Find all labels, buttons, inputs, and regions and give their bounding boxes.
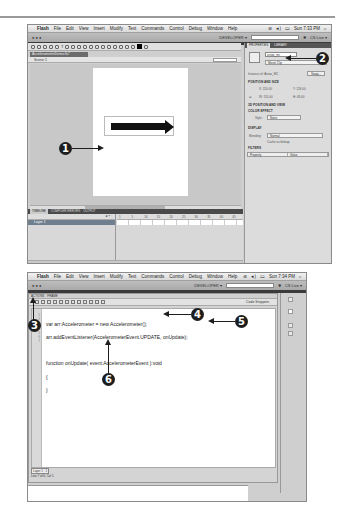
- menu-debug[interactable]: Debug: [189, 274, 202, 279]
- menu-commands[interactable]: Commands: [141, 274, 164, 279]
- frame-row[interactable]: [117, 220, 243, 225]
- pencil-tool-icon[interactable]: [77, 45, 81, 49]
- lasso-tool-icon[interactable]: [49, 45, 53, 49]
- menu-modify[interactable]: Modify: [110, 274, 123, 279]
- instance-name-field[interactable]: arrow_mc: [265, 52, 297, 57]
- eyedropper-tool-icon[interactable]: [107, 45, 111, 49]
- panel-icon[interactable]: [288, 309, 293, 314]
- pen-tool-icon[interactable]: [55, 45, 59, 49]
- tab-frame[interactable]: FRAME: [47, 294, 58, 298]
- find-icon[interactable]: [41, 300, 45, 304]
- help-search-input[interactable]: [251, 35, 299, 40]
- window-controls-icon[interactable]: ● ● ●: [32, 35, 41, 40]
- clock[interactable]: Sun 7:33 PM: [294, 26, 320, 31]
- menu-modify[interactable]: Modify: [110, 26, 123, 31]
- code-text[interactable]: var arr:Accelerometer = new Acceleromete…: [46, 313, 188, 401]
- menu-text[interactable]: Text: [128, 26, 136, 31]
- menu-edit[interactable]: Edit: [66, 274, 74, 279]
- lock-proportions-icon[interactable]: ⊖: [249, 95, 252, 99]
- help-search-input[interactable]: [226, 283, 274, 288]
- paint-bucket-tool-icon[interactable]: [101, 45, 105, 49]
- h-value[interactable]: 48.00: [297, 95, 305, 99]
- panel-icon[interactable]: [288, 331, 293, 336]
- deco-tool-icon[interactable]: [89, 45, 93, 49]
- menu-window[interactable]: Window: [207, 274, 223, 279]
- menu-control[interactable]: Control: [169, 26, 184, 31]
- volume-icon[interactable]: ◂): [276, 26, 281, 31]
- menu-file[interactable]: File: [54, 26, 61, 31]
- workspace-switcher[interactable]: DEVELOPER ▾: [219, 35, 247, 40]
- section-3d-position[interactable]: 3D POSITION AND VIEW: [248, 103, 285, 107]
- rectangle-tool-icon[interactable]: [71, 45, 75, 49]
- x-value[interactable]: 220.00: [263, 87, 272, 91]
- y-value[interactable]: 226.00: [297, 87, 306, 91]
- spotlight-icon[interactable]: ⌕: [299, 274, 302, 279]
- menu-view[interactable]: View: [79, 274, 89, 279]
- menu-file[interactable]: File: [54, 274, 61, 279]
- script-editor[interactable]: 1 2 3 4 5 6 7 var arr:Accelerometer = ne…: [31, 308, 276, 468]
- expand-icon[interactable]: [83, 300, 87, 304]
- debug-options-icon[interactable]: [71, 300, 75, 304]
- cs-live-button[interactable]: CS Live ▾: [285, 283, 302, 288]
- scene-label[interactable]: Scene 1: [34, 58, 47, 62]
- menu-insert[interactable]: Insert: [93, 274, 104, 279]
- tab-library[interactable]: LIBRARY: [272, 43, 289, 48]
- brush-tool-icon[interactable]: [83, 45, 87, 49]
- selection-tool-icon[interactable]: [31, 45, 35, 49]
- panel-icon[interactable]: [288, 323, 293, 328]
- spotlight-icon[interactable]: ⌕: [324, 26, 327, 31]
- clock[interactable]: Sun 7:34 PM: [269, 274, 295, 279]
- toolbox-icon[interactable]: [101, 300, 105, 304]
- style-select[interactable]: None: [267, 115, 301, 120]
- window-controls-icon[interactable]: ● ● ●: [32, 283, 41, 288]
- text-tool-icon[interactable]: T: [61, 44, 63, 49]
- code-snippets-button[interactable]: Code Snippets: [246, 300, 277, 304]
- target-path-icon[interactable]: [47, 300, 51, 304]
- panel-icon[interactable]: [288, 297, 293, 302]
- tab-properties[interactable]: PROPERTIES: [247, 43, 270, 48]
- settings-icon[interactable]: ✱: [278, 283, 281, 288]
- hand-tool-icon[interactable]: [119, 45, 123, 49]
- eraser-tool-icon[interactable]: [113, 45, 117, 49]
- menu-help[interactable]: Help: [228, 26, 237, 31]
- fill-color-swatch[interactable]: [137, 44, 142, 49]
- layer-row[interactable]: Layer 1: [28, 220, 115, 225]
- section-filters[interactable]: FILTERS: [248, 146, 261, 150]
- workspace-switcher[interactable]: DEVELOPER ▾: [194, 283, 222, 288]
- volume-icon[interactable]: ◂): [251, 274, 256, 279]
- wifi-icon[interactable]: ≋: [268, 26, 272, 31]
- subselection-tool-icon[interactable]: [37, 45, 41, 49]
- section-color-effect[interactable]: COLOR EFFECT: [248, 109, 273, 113]
- zoom-tool-icon[interactable]: [125, 45, 129, 49]
- menu-app[interactable]: Flash: [37, 26, 49, 31]
- line-tool-icon[interactable]: [65, 45, 69, 49]
- menu-debug[interactable]: Debug: [189, 26, 202, 31]
- auto-format-icon[interactable]: [59, 300, 63, 304]
- menu-app[interactable]: Flash: [37, 274, 49, 279]
- menu-window[interactable]: Window: [207, 26, 223, 31]
- menu-text[interactable]: Text: [128, 274, 136, 279]
- free-transform-tool-icon[interactable]: [43, 45, 47, 49]
- zoom-select[interactable]: [213, 58, 237, 62]
- blending-select[interactable]: Normal: [267, 133, 323, 138]
- menu-view[interactable]: View: [79, 26, 89, 31]
- menu-help[interactable]: Help: [228, 274, 237, 279]
- swap-colors-icon[interactable]: [144, 45, 148, 49]
- cache-as-bitmap-checkbox[interactable]: Cache as bitmap: [267, 140, 290, 144]
- battery-icon[interactable]: ▭: [260, 274, 265, 279]
- code-hint-icon[interactable]: [65, 300, 69, 304]
- bone-tool-icon[interactable]: [95, 45, 99, 49]
- check-syntax-icon[interactable]: [53, 300, 57, 304]
- w-value[interactable]: 155.00: [263, 95, 272, 99]
- stroke-color-icon[interactable]: [131, 45, 135, 49]
- comment-icon[interactable]: [89, 300, 93, 304]
- battery-icon[interactable]: ▭: [285, 26, 290, 31]
- collapse-icon[interactable]: [77, 300, 81, 304]
- menu-commands[interactable]: Commands: [141, 26, 164, 31]
- menu-edit[interactable]: Edit: [66, 26, 74, 31]
- eye-lock-outline-icons[interactable]: ● ▪ ▫: [105, 214, 112, 218]
- cs-live-button[interactable]: CS Live ▾: [310, 35, 327, 40]
- menu-insert[interactable]: Insert: [93, 26, 104, 31]
- arrow-movieclip[interactable]: [111, 123, 166, 130]
- swap-button[interactable]: Swap...: [307, 71, 325, 76]
